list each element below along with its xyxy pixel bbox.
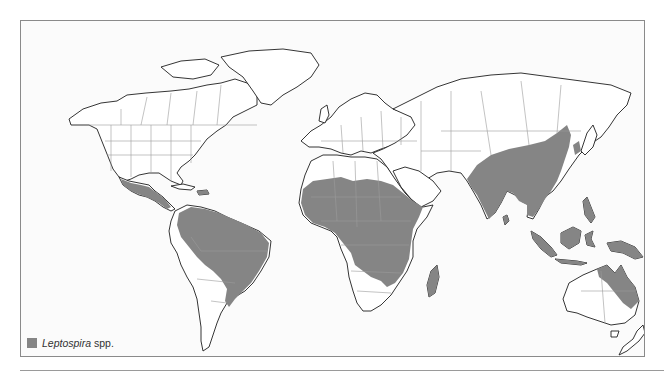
new-zealand [619, 325, 644, 355]
map-legend: Leptospira spp. [27, 337, 114, 349]
endemic-madagascar [427, 265, 439, 297]
cuba [171, 184, 195, 190]
tasmania [611, 331, 619, 337]
north-america [69, 79, 257, 185]
arctic-islands [161, 59, 219, 79]
map-frame: Leptospira spp. [20, 20, 645, 357]
bottom-separator [20, 370, 664, 371]
legend-label: Leptospira spp. [42, 337, 114, 349]
legend-swatch-leptospira [27, 338, 37, 348]
endemic-mexico-central-america [121, 179, 171, 209]
endemic-sumatra [531, 231, 557, 257]
world-map [21, 21, 644, 356]
